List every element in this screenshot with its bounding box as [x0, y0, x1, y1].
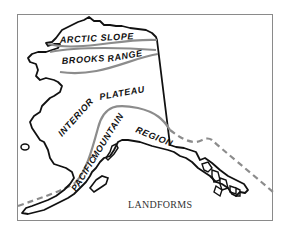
- label-plateau: PLATEAU: [99, 84, 146, 102]
- label-arctic-slope: ARCTIC SLOPE: [59, 31, 135, 45]
- map-title: LANDFORMS: [128, 199, 192, 210]
- label-interior: INTERIOR: [56, 96, 95, 138]
- label-range: RANGE: [107, 48, 144, 64]
- label-pacific: PACIFIC: [69, 154, 98, 193]
- label-brooks: BROOKS: [61, 53, 105, 66]
- st-lawrence-island: [21, 144, 29, 150]
- kodiak-island: [90, 176, 108, 192]
